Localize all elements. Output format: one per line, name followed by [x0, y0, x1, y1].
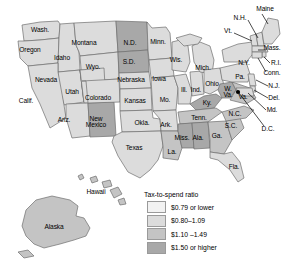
state-label-NM: NewMexico — [86, 116, 106, 129]
state-label-FL: Fla. — [229, 164, 240, 171]
leader-NJ — [256, 80, 268, 86]
state-label-MI: Mich. — [195, 65, 210, 72]
state-CT — [252, 52, 262, 58]
state-label-IA: Iowa — [152, 76, 166, 83]
state-label-CA: Calif. — [19, 98, 33, 105]
legend-label: $0.79 or lower — [171, 204, 214, 211]
state-label-OH: Ohio — [205, 81, 219, 88]
legend-title: Tax-to-spend ratio — [144, 191, 255, 198]
state-label-TX: Texas — [126, 145, 143, 152]
state-label-MS: Miss. — [175, 135, 190, 142]
state-label-UT: Utah — [65, 89, 79, 96]
state-label-TN: Tenn. — [191, 115, 207, 122]
state-label-GA: Ga. — [212, 133, 222, 140]
leader-ME — [262, 14, 268, 24]
state-label-MT: Montana — [72, 40, 97, 47]
state-label-NY: N.Y. — [238, 60, 250, 67]
state-label-VT: Vt. — [224, 28, 232, 35]
state-label-IN: Ind. — [191, 87, 202, 94]
state-label-IL: Ill. — [181, 87, 187, 94]
state-label-HI: Hawaii — [86, 189, 105, 196]
state-label-RI: R.I. — [271, 60, 281, 67]
state-label-WV: W.Va. — [223, 86, 232, 99]
state-ND — [116, 21, 148, 52]
state-label-ND: N.D. — [124, 40, 137, 47]
state-label-DE: Del. — [268, 95, 279, 102]
state-label-KS: Kansas — [124, 98, 145, 105]
legend-label: $0.80–1.09 — [171, 217, 205, 224]
state-label-NC: N.C. — [229, 111, 242, 118]
state-label-WA: Wash. — [31, 27, 49, 34]
state-label-PA: Pa. — [235, 74, 245, 81]
state-label-WY: Wyo. — [86, 64, 101, 71]
legend-row: $0.80–1.09 — [143, 215, 255, 226]
state-label-SD: S.D. — [123, 59, 135, 66]
state-NJ — [248, 74, 256, 86]
state-TX — [112, 131, 163, 178]
state-label-WI: Wis. — [170, 57, 182, 64]
state-label-ME: Maine — [256, 6, 273, 13]
state-label-CT: Conn. — [263, 70, 280, 77]
legend-row: $0.79 or lower — [143, 202, 255, 213]
state-label-NH: N.H. — [234, 15, 247, 22]
state-label-VA: Va. — [238, 94, 247, 101]
state-label-NV: Nevada — [35, 77, 57, 84]
state-label-MA: Mass. — [263, 45, 280, 52]
legend-swatch-c3 — [147, 228, 166, 240]
state-label-AL: Ala. — [193, 135, 204, 142]
legend: Tax-to-spend ratio $0.79 or lower$0.80–1… — [143, 191, 255, 256]
legend-rows: $0.79 or lower$0.80–1.09$1.10 –1.49$1.50… — [143, 202, 255, 254]
leader-VT — [234, 33, 252, 41]
state-ME — [262, 18, 280, 44]
state-label-NJ: N.J. — [268, 83, 279, 90]
state-label-OR: Oregon — [19, 47, 40, 54]
state-label-SC: S.C. — [225, 123, 237, 130]
leader-RI — [264, 57, 270, 63]
state-label-NE: Nebraska — [117, 77, 144, 84]
state-label-MO: Mo. — [160, 97, 171, 104]
legend-label: $1.50 or higher — [171, 244, 217, 251]
legend-swatch-c1 — [147, 201, 166, 213]
state-label-CO: Colorado — [85, 95, 111, 102]
state-label-AR: Ark. — [160, 122, 171, 129]
state-label-LA: La. — [168, 149, 177, 156]
legend-swatch-c2 — [147, 215, 166, 227]
state-label-ID: Idaho — [54, 55, 70, 62]
state-label-KY: Ky. — [203, 100, 212, 107]
legend-label: $1.10 –1.49 — [171, 231, 207, 238]
map-figure: .st{stroke:#6e6e6e;stroke-width:0.7;stro… — [0, 0, 294, 276]
state-label-DC: D.C. — [262, 126, 275, 133]
leader-DE — [254, 90, 268, 98]
legend-row: $1.10 –1.49 — [143, 229, 255, 240]
state-label-AK: Alaska — [44, 224, 63, 231]
legend-row: $1.50 or higher — [143, 242, 255, 253]
legend-swatch-c4 — [147, 242, 166, 254]
state-label-OK: Okla. — [135, 120, 150, 127]
state-label-AZ: Ariz. — [58, 117, 71, 124]
state-label-MN: Minn. — [150, 39, 166, 46]
state-RI — [262, 52, 266, 57]
state-label-MD: Md. — [267, 107, 278, 114]
